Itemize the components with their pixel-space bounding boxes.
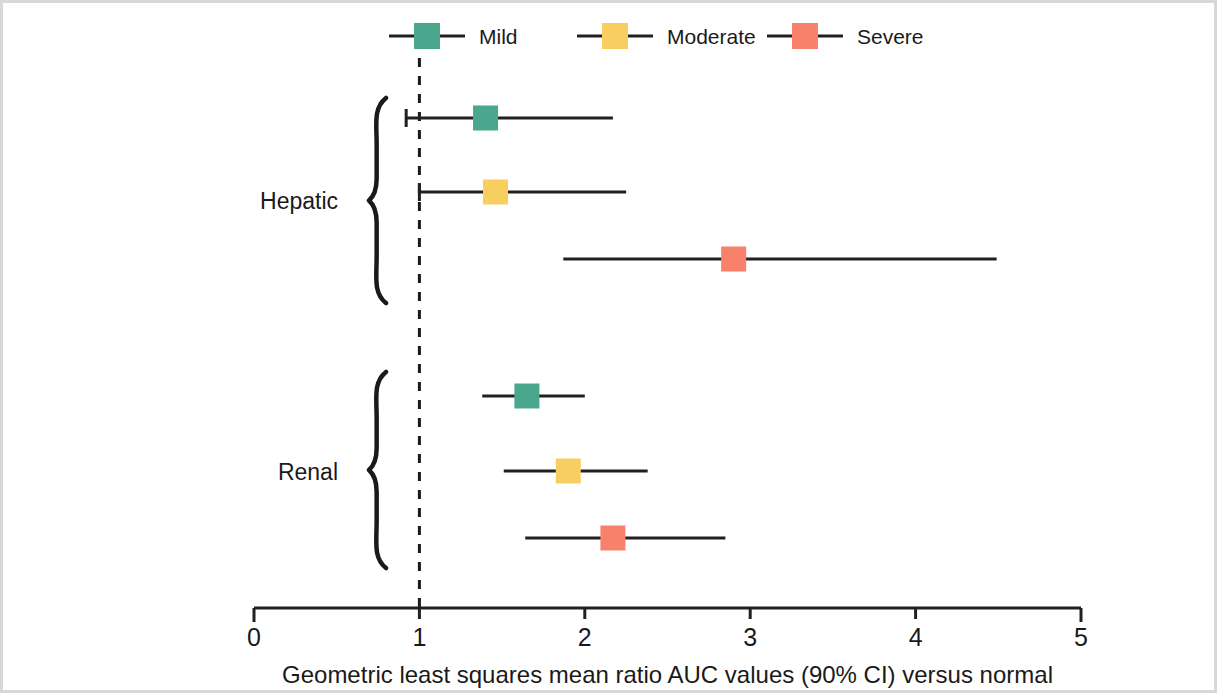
forest-row-hepatic-severe bbox=[563, 247, 996, 272]
group-label-hepatic: Hepatic bbox=[260, 188, 338, 214]
x-axis-title: Geometric least squares mean ratio AUC v… bbox=[282, 661, 1053, 688]
legend-item-severe[interactable]: Severe bbox=[767, 23, 924, 49]
legend-item-moderate[interactable]: Moderate bbox=[577, 23, 756, 49]
forest-row-hepatic-severe-estimate-marker bbox=[721, 247, 746, 272]
legend: MildModerateSevere bbox=[389, 23, 924, 49]
x-tick-label-5: 5 bbox=[1074, 623, 1088, 651]
x-tick-label-2: 2 bbox=[578, 623, 592, 651]
x-tick-label-3: 3 bbox=[743, 623, 757, 651]
legend-label-mild: Mild bbox=[479, 25, 518, 48]
legend-item-mild[interactable]: Mild bbox=[389, 23, 518, 49]
forest-row-renal-mild-estimate-marker bbox=[514, 384, 539, 409]
forest-plot-figure: MildModerateSevere HepaticRenal 012345 G… bbox=[0, 0, 1217, 693]
forest-row-renal-severe-estimate-marker bbox=[600, 526, 625, 551]
x-tick-label-1: 1 bbox=[412, 623, 426, 651]
legend-label-severe: Severe bbox=[857, 25, 924, 48]
forest-rows bbox=[406, 106, 996, 551]
forest-row-hepatic-moderate-estimate-marker bbox=[483, 180, 508, 205]
legend-swatch-moderate bbox=[602, 23, 628, 49]
forest-row-renal-moderate-estimate-marker bbox=[556, 459, 581, 484]
forest-row-hepatic-moderate bbox=[419, 180, 626, 205]
legend-swatch-severe bbox=[792, 23, 818, 49]
group-braces: HepaticRenal bbox=[260, 98, 386, 568]
legend-label-moderate: Moderate bbox=[667, 25, 756, 48]
brace-hepatic bbox=[369, 98, 386, 303]
x-axis: 012345 bbox=[247, 608, 1088, 651]
forest-row-renal-mild bbox=[482, 384, 585, 409]
forest-row-renal-severe bbox=[525, 526, 725, 551]
forest-row-hepatic-mild-estimate-marker bbox=[473, 106, 498, 131]
forest-plot-canvas: MildModerateSevere HepaticRenal 012345 G… bbox=[0, 0, 1217, 693]
x-tick-label-0: 0 bbox=[247, 623, 261, 651]
forest-row-renal-moderate bbox=[504, 459, 648, 484]
brace-renal bbox=[369, 372, 386, 568]
forest-row-hepatic-mild bbox=[406, 106, 613, 131]
legend-swatch-mild bbox=[414, 23, 440, 49]
group-label-renal: Renal bbox=[278, 459, 338, 485]
x-tick-label-4: 4 bbox=[909, 623, 923, 651]
